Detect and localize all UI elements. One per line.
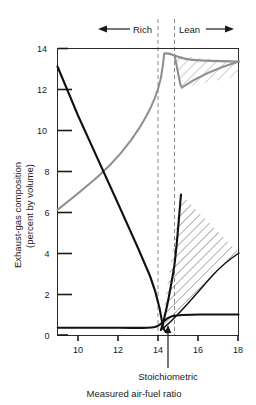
plot-frame <box>58 49 239 336</box>
stoichiometric-annotation: Stoichiometric <box>138 325 198 382</box>
x-axis-tick-labels: 10 12 14 16 18 <box>73 345 243 355</box>
y-tick-label-4: 4 <box>44 249 49 259</box>
y-axis-title: Exhaust-gas composition <box>12 162 23 268</box>
y-tick-label-10: 10 <box>37 126 47 136</box>
stoichiometric-label: Stoichiometric <box>138 371 198 382</box>
y-axis-tick-labels: 14 12 10 8 6 4 2 0 <box>37 44 50 341</box>
y-tick-label-2: 2 <box>44 290 49 300</box>
lean-region-annotation: Lean <box>179 24 234 35</box>
y-axis-ticks <box>58 49 72 336</box>
x-tick-label-10: 10 <box>73 345 83 355</box>
y-tick-label-6: 6 <box>44 208 49 218</box>
series-curve-o2-baseline <box>58 315 239 328</box>
y-tick-label-12: 12 <box>37 85 47 95</box>
exhaust-gas-composition-figure: Exhaust-gas composition (percent by volu… <box>0 0 256 405</box>
y-tick-label-0: 0 <box>44 331 49 341</box>
x-tick-label-12: 12 <box>113 345 123 355</box>
x-tick-label-16: 16 <box>193 345 203 355</box>
rich-region-annotation: Rich <box>98 24 152 35</box>
y-axis-title-second-line: (percent by volume) <box>24 164 35 248</box>
lower-uncertainty-hatch <box>156 190 244 338</box>
chart-canvas: Exhaust-gas composition (percent by volu… <box>0 0 256 405</box>
y-tick-label-8: 8 <box>44 167 49 177</box>
rich-label: Rich <box>133 24 152 35</box>
x-tick-label-14: 14 <box>153 345 163 355</box>
x-tick-label-18: 18 <box>233 345 243 355</box>
y-tick-label-14: 14 <box>37 44 47 54</box>
lean-label: Lean <box>179 24 200 35</box>
x-axis-title: Measured air-fuel ratio <box>86 388 181 399</box>
